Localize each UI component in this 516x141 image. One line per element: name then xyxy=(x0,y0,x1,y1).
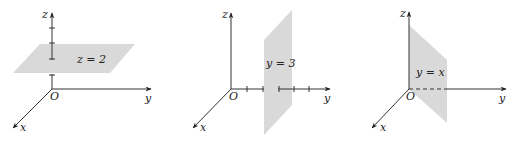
plane-z2 xyxy=(13,44,135,73)
equation-label: y = x xyxy=(415,66,445,79)
panel-z-equals-2: z y x O z = 2 xyxy=(13,8,152,134)
x-axis-label: x xyxy=(380,121,387,134)
equation-label: y = 3 xyxy=(265,57,295,70)
figure-canvas: z y x O z = 2 z y x O y = 3 z y x O y = … xyxy=(0,0,516,141)
y-axis-label: y xyxy=(144,92,152,105)
z-axis-label: z xyxy=(41,8,48,21)
equation-label: z = 2 xyxy=(76,53,106,66)
x-axis-label: x xyxy=(20,121,27,134)
y-axis-label: y xyxy=(498,92,506,105)
panel-y-equals-x: z y x O y = x xyxy=(372,7,506,134)
panel-y-equals-3: z y x O y = 3 xyxy=(193,8,331,135)
plane-y3 xyxy=(264,10,292,135)
x-axis xyxy=(193,89,231,128)
origin-label: O xyxy=(406,90,415,103)
x-axis xyxy=(372,89,409,128)
z-axis-label: z xyxy=(399,7,406,20)
z-axis-label: z xyxy=(221,8,228,21)
origin-label: O xyxy=(229,90,238,103)
origin-label: O xyxy=(50,90,59,103)
y-axis-label: y xyxy=(323,92,331,105)
x-axis-label: x xyxy=(200,121,207,134)
x-axis xyxy=(13,89,52,128)
